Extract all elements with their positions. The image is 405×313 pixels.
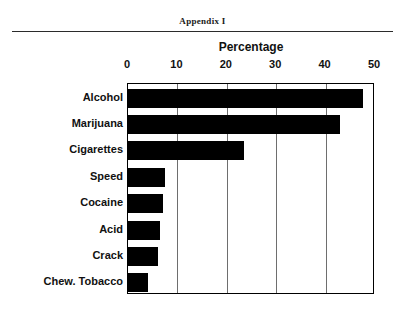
category-label: Acid xyxy=(3,223,123,235)
x-tick-label: 10 xyxy=(161,58,191,70)
bar xyxy=(128,115,340,134)
category-label: Cocaine xyxy=(3,196,123,208)
header-divider xyxy=(12,31,393,32)
bar xyxy=(128,89,363,108)
category-label: Alcohol xyxy=(3,91,123,103)
bar xyxy=(128,141,244,160)
x-tick-label: 0 xyxy=(112,58,142,70)
x-tick-label: 40 xyxy=(310,58,340,70)
plot-area xyxy=(127,83,374,294)
bar xyxy=(128,247,158,266)
x-tick-label: 20 xyxy=(211,58,241,70)
bar xyxy=(128,194,163,213)
category-label: Marijuana xyxy=(3,117,123,129)
chart-title: Percentage xyxy=(186,40,316,54)
category-label: Cigarettes xyxy=(3,143,123,155)
x-tick-label: 50 xyxy=(359,58,389,70)
category-label: Chew. Tobacco xyxy=(3,275,123,287)
bar xyxy=(128,168,165,187)
bar xyxy=(128,221,160,240)
bar xyxy=(128,273,148,292)
category-label: Crack xyxy=(3,249,123,261)
appendix-title: Appendix I xyxy=(179,16,225,26)
page-header: Appendix I xyxy=(0,10,405,28)
x-tick-label: 30 xyxy=(260,58,290,70)
bar-chart: Percentage 01020304050 AlcoholMarijuanaC… xyxy=(0,36,405,306)
category-label: Speed xyxy=(3,170,123,182)
